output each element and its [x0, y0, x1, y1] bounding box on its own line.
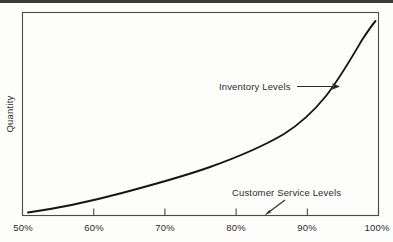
x-tick-label-50: 50%: [13, 222, 33, 233]
inventory-levels-label: Inventory Levels: [219, 81, 291, 92]
x-axis-ticks: [23, 209, 379, 216]
inventory-curve: [28, 21, 376, 213]
plot-frame: [23, 13, 379, 216]
annotation-inventory-levels: Inventory Levels: [219, 81, 340, 92]
customer-service-leader-line: [269, 200, 285, 212]
x-tick-label-70: 70%: [155, 222, 175, 233]
x-tick-label-90: 90%: [297, 222, 317, 233]
x-tick-label-80: 80%: [226, 222, 246, 233]
annotation-customer-service-levels: Customer Service Levels: [232, 187, 341, 216]
y-axis-title: Quantity: [4, 95, 15, 132]
x-axis-tick-labels: 50% 60% 70% 80% 90% 100%: [13, 222, 390, 233]
x-tick-label-60: 60%: [84, 222, 104, 233]
exponential-inventory-chart: 50% 60% 70% 80% 90% 100% Quantity Invent…: [0, 0, 393, 242]
x-tick-label-100: 100%: [364, 222, 389, 233]
chart-figure: 50% 60% 70% 80% 90% 100% Quantity Invent…: [0, 0, 393, 242]
customer-service-levels-label: Customer Service Levels: [232, 187, 341, 198]
